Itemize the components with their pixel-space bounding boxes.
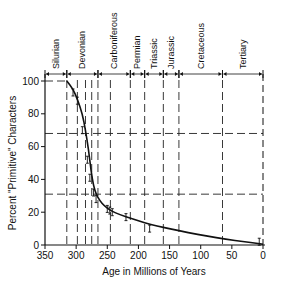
fitted-curve [67, 81, 263, 244]
arrow-left-icon [146, 72, 149, 76]
reference-lines [45, 80, 263, 245]
x-tick-label: 350 [37, 250, 54, 261]
x-tick-label: 250 [99, 250, 116, 261]
period-label: Triassic [149, 38, 159, 69]
x-tick-label: 150 [161, 250, 178, 261]
period-label: Devonian [77, 31, 87, 69]
arrow-right-icon [126, 72, 129, 76]
data-curve [67, 81, 263, 244]
arrow-left-icon [46, 72, 49, 76]
arrow-left-icon [68, 72, 71, 76]
period-label: Jurassic [166, 35, 176, 69]
period-label: Silurian [51, 39, 61, 69]
y-axis-label: Percent "Primitive" Characters [7, 96, 18, 230]
arrow-right-icon [175, 72, 178, 76]
period-label: Tertiary [238, 39, 248, 69]
y-tick-label: 0 [33, 240, 39, 251]
arrow-right-icon [219, 72, 222, 76]
arrow-left-icon [164, 72, 167, 76]
x-axis-label: Age in Millions of Years [102, 266, 205, 277]
y-tick-label: 20 [28, 207, 40, 218]
period-label: Cretaceous [196, 22, 206, 69]
x-tick-label: 50 [226, 250, 238, 261]
chart-svg: SilurianDevonianCarboniferousPermianTria… [0, 0, 281, 298]
arrow-right-icon [141, 72, 144, 76]
chart-container: SilurianDevonianCarboniferousPermianTria… [0, 0, 281, 298]
y-tick-label: 60 [28, 141, 40, 152]
arrow-left-icon [131, 72, 134, 76]
arrow-left-icon [224, 72, 227, 76]
y-tick-label: 80 [28, 108, 40, 119]
period-label: Permian [132, 35, 142, 69]
y-tick-label: 100 [22, 76, 39, 87]
data-points [72, 89, 261, 245]
x-tick-label: 300 [68, 250, 85, 261]
x-tick-label: 200 [130, 250, 147, 261]
period-band: SilurianDevonianCarboniferousPermianTria… [45, 12, 263, 78]
y-tick-label: 40 [28, 174, 40, 185]
arrow-right-icon [94, 72, 97, 76]
period-label: Carboniferous [109, 12, 119, 69]
arrow-left-icon [99, 72, 102, 76]
x-tick-label: 0 [260, 250, 266, 261]
arrow-right-icon [63, 72, 66, 76]
arrow-left-icon [180, 72, 183, 76]
arrow-right-icon [159, 72, 162, 76]
arrow-right-icon [259, 72, 262, 76]
x-tick-label: 100 [192, 250, 209, 261]
